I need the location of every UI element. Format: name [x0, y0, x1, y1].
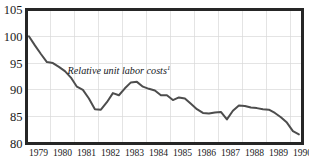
x-tick-label: 1987 — [221, 147, 240, 158]
x-tick-label: 1985 — [173, 147, 192, 158]
x-tick-label: 1989 — [269, 147, 288, 158]
x-tick-label: 1983 — [125, 147, 144, 158]
chart-background — [0, 0, 309, 163]
x-tick-label: 1990 — [293, 147, 309, 158]
x-tick-label: 1988 — [245, 147, 264, 158]
chart-container: 10510095908580 1979198019811982198319841… — [0, 0, 309, 163]
y-tick-label: 95 — [10, 57, 23, 71]
y-tick-label: 80 — [10, 137, 23, 151]
x-tick-label: 1986 — [197, 147, 216, 158]
x-tick-label: 1980 — [53, 147, 72, 158]
x-tick-label: 1982 — [101, 147, 120, 158]
x-tick-label: 1979 — [29, 147, 48, 158]
x-tick-label: 1984 — [149, 147, 168, 158]
x-tick-label: 1981 — [77, 147, 96, 158]
y-tick-label: 90 — [10, 83, 23, 97]
series-annotation-label: Relative unit labor costs1 — [67, 64, 171, 75]
y-tick-label: 85 — [10, 110, 23, 124]
y-tick-label: 105 — [4, 3, 23, 17]
y-tick-label: 100 — [4, 30, 23, 44]
line-chart: 10510095908580 1979198019811982198319841… — [0, 0, 309, 163]
